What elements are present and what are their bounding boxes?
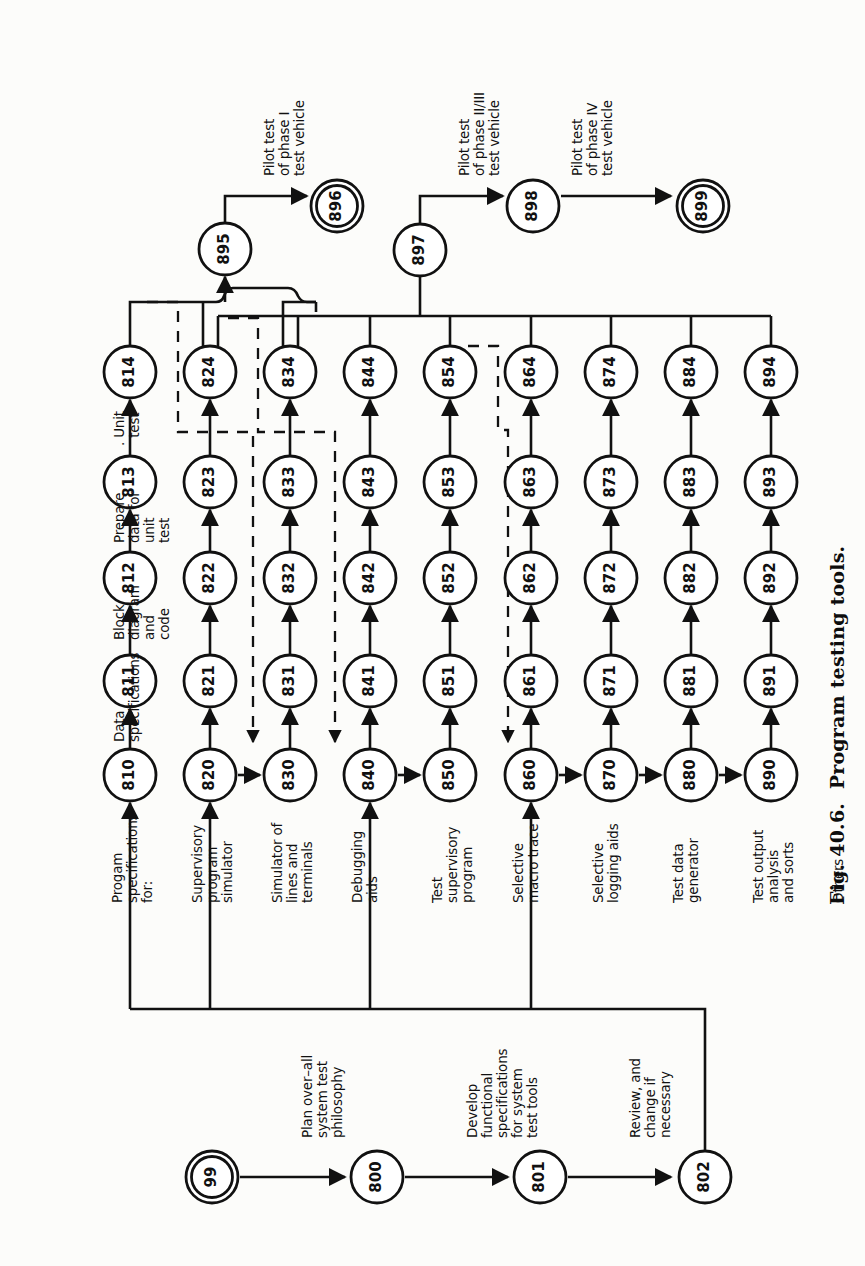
activity-label-test-data-gen: Test data generator <box>671 838 701 903</box>
node-label-850: 850 <box>442 752 458 798</box>
node-label-861: 861 <box>523 658 539 704</box>
node-label-870: 870 <box>603 752 619 798</box>
node-label-802: 802 <box>697 1154 713 1200</box>
node-label-892: 892 <box>763 555 779 601</box>
activity-label-test-supervisory: Test supervisory program <box>430 827 475 903</box>
node-label-830: 830 <box>282 752 298 798</box>
node-label-899: 899 <box>695 183 711 229</box>
activity-label-block-diagram: Block diagram and code <box>112 585 172 640</box>
node-label-810: 810 <box>122 752 138 798</box>
node-label-860: 860 <box>523 752 539 798</box>
node-label-851: 851 <box>442 658 458 704</box>
node-label-822: 822 <box>202 555 218 601</box>
node-label-880: 880 <box>683 752 699 798</box>
node-label-853: 853 <box>442 459 458 505</box>
node-label-871: 871 <box>603 658 619 704</box>
node-label-881: 881 <box>683 658 699 704</box>
node-label-801: 801 <box>532 1154 548 1200</box>
node-label-831: 831 <box>282 658 298 704</box>
node-label-874: 874 <box>603 349 619 395</box>
node-label-872: 872 <box>603 555 619 601</box>
node-label-834: 834 <box>282 349 298 395</box>
activity-label-unit-test: . Unit test <box>112 411 142 446</box>
node-label-897: 897 <box>412 227 428 273</box>
node-label-832: 832 <box>282 555 298 601</box>
node-label-863: 863 <box>523 459 539 505</box>
activity-label-selective-macro: Selective macro trace <box>511 824 541 903</box>
activity-label-debugging-aids: Debugging aids <box>350 831 380 903</box>
node-label-852: 852 <box>442 555 458 601</box>
activity-label-supervisory-sim: Supervisory program simulator <box>190 825 235 903</box>
node-label-890: 890 <box>763 752 779 798</box>
node-label-884: 884 <box>683 349 699 395</box>
activity-label-prog-spec-for: Progam specifications for: <box>110 814 155 903</box>
node-label-862: 862 <box>523 555 539 601</box>
activity-label-test-output: Test output analysis and sorts <box>751 830 796 903</box>
node-label-883: 883 <box>683 459 699 505</box>
node-label-800: 800 <box>369 1154 385 1200</box>
node-label-893: 893 <box>763 459 779 505</box>
node-label-873: 873 <box>603 459 619 505</box>
activity-label-plan-philosophy: Plan over–all system test philosophy <box>300 1055 345 1138</box>
activity-label-data-specs: Data specifications <box>112 653 142 742</box>
figure-sheet: 9980080180281081181281381482082182282382… <box>0 0 865 1266</box>
node-label-864: 864 <box>523 349 539 395</box>
figure-caption: Fig. 40.6. Program testing tools. <box>826 546 848 905</box>
node-label-841: 841 <box>362 658 378 704</box>
node-label-854: 854 <box>442 349 458 395</box>
activity-label-simulator-lines: Simulator of lines and terminals <box>270 823 315 903</box>
node-label-898: 898 <box>525 183 541 229</box>
node-label-820: 820 <box>202 752 218 798</box>
node-label-895: 895 <box>217 226 233 272</box>
activity-label-prepare-data: Prepare data for unit test <box>112 491 172 543</box>
node-label-842: 842 <box>362 555 378 601</box>
node-label-894: 894 <box>763 349 779 395</box>
node-label-840: 840 <box>362 752 378 798</box>
node-label-824: 824 <box>202 349 218 395</box>
activity-label-pilot-phase-1: Pilot test of phase I test vehicle <box>262 100 307 176</box>
node-label-896: 896 <box>329 183 345 229</box>
node-label-814: 814 <box>122 349 138 395</box>
activity-label-selective-log: Selective logging aids <box>591 823 621 903</box>
node-label-833: 833 <box>282 459 298 505</box>
activity-label-pilot-phase-23: Pilot test of phase II/III test vehicle <box>457 92 502 176</box>
node-label-99: 99 <box>204 1154 220 1200</box>
activity-label-pilot-phase-4: Pilot test of phase IV test vehicle <box>570 100 615 176</box>
node-label-843: 843 <box>362 459 378 505</box>
activity-label-review-change: Review, and change if necessary <box>628 1058 673 1138</box>
activity-label-develop-specs: Develop functional specifications for sy… <box>465 1049 541 1138</box>
node-label-891: 891 <box>763 658 779 704</box>
node-label-821: 821 <box>202 658 218 704</box>
node-label-844: 844 <box>362 349 378 395</box>
node-label-823: 823 <box>202 459 218 505</box>
node-label-882: 882 <box>683 555 699 601</box>
